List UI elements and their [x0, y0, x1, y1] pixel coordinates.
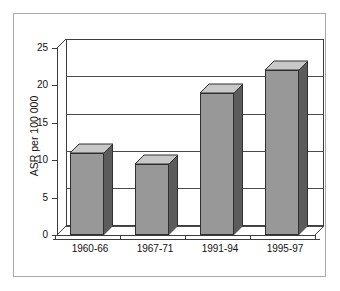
y-tick-20 [52, 85, 57, 86]
bar-1960-66 [70, 153, 104, 235]
bar-front-face [265, 70, 299, 235]
y-tick-5 [52, 198, 57, 199]
plot-area: 25 20 15 10 5 0 ASR per 100 000 [0, 0, 340, 291]
y-axis-back-line [66, 39, 67, 227]
y-tick-15 [52, 123, 57, 124]
x-tick-0 [55, 236, 56, 240]
x-tick-1 [120, 236, 121, 240]
bar-top-face [135, 155, 179, 166]
bar-1991-94 [200, 93, 234, 235]
bar-side-outline [299, 61, 308, 235]
y-tick-label-0: 0 [26, 230, 48, 240]
bar-1967-71 [135, 164, 169, 235]
plot-floor-front-edge [57, 235, 316, 236]
x-axis-label-1967-71: 1967-71 [122, 243, 188, 254]
bar-front-face [70, 153, 104, 235]
x-tick-2 [185, 236, 186, 240]
y-tick-10 [52, 160, 57, 161]
bar-top-face [265, 61, 309, 72]
x-axis-label-1960-66: 1960-66 [57, 243, 123, 254]
floor-right-diagonal [315, 226, 327, 238]
x-tick-3 [250, 236, 251, 240]
y-axis-title: ASR per 100 000 [28, 76, 40, 196]
bar-side-outline [169, 155, 178, 235]
bar-side-outline [234, 84, 243, 235]
x-tick-4 [315, 236, 316, 240]
axis-top-diagonal [57, 39, 69, 51]
y-axis-front-line [57, 48, 58, 236]
y-tick-25 [52, 48, 57, 49]
axis-bottom-diagonal [57, 226, 69, 238]
bar-top-face [200, 84, 244, 95]
x-axis-label-1995-97: 1995-97 [252, 243, 318, 254]
bar-front-face [135, 164, 169, 235]
y-tick-label-25: 25 [26, 43, 48, 53]
x-axis-line [53, 239, 320, 240]
bar-top-face [70, 144, 114, 155]
figure: 25 20 15 10 5 0 ASR per 100 000 [0, 0, 340, 291]
bar-front-face [200, 93, 234, 235]
bar-1995-97 [265, 70, 299, 235]
x-axis-label-1991-94: 1991-94 [187, 243, 253, 254]
bar-side-outline [104, 144, 113, 235]
